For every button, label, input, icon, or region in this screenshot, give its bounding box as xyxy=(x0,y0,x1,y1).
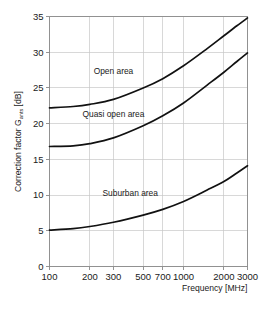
x-tick-label: 1000 xyxy=(173,271,194,282)
y-tick-label: 10 xyxy=(33,189,44,200)
curve-annotation-open-area: Open area xyxy=(94,66,134,76)
x-tick-label: 700 xyxy=(155,271,171,282)
y-tick-label: 20 xyxy=(33,118,44,129)
x-tick-label: 500 xyxy=(135,271,151,282)
data-curve-suburban-area xyxy=(50,166,248,230)
y-tick-label: 35 xyxy=(33,11,44,22)
x-tick-label: 300 xyxy=(106,271,122,282)
y-axis-title-subscript: ants xyxy=(18,109,24,120)
curve-annotation-quasi-open-area: Quasi open area xyxy=(82,109,144,119)
curve-annotation-suburban-area: Suburban area xyxy=(102,188,158,198)
correction-factor-chart: 0510152025303510020030050070010002000300… xyxy=(0,0,274,310)
x-tick-label: 3000 xyxy=(237,271,258,282)
y-tick-label: 30 xyxy=(33,47,44,58)
y-tick-label: 15 xyxy=(33,154,44,165)
y-tick-label: 25 xyxy=(33,82,44,93)
data-curve-open-area xyxy=(50,18,248,108)
x-axis-title: Frequency [MHz] xyxy=(182,283,247,293)
y-axis-title-unit: [dB] xyxy=(13,91,23,109)
chart-canvas: 0510152025303510020030050070010002000300… xyxy=(0,0,274,310)
y-axis-title: Correction factor Gants [dB] xyxy=(13,91,24,192)
data-curve-quasi-open-area xyxy=(50,53,248,147)
y-axis-title-main: Correction factor G xyxy=(13,119,23,192)
y-tick-label: 5 xyxy=(38,225,43,236)
x-tick-label: 2000 xyxy=(213,271,234,282)
x-tick-label: 200 xyxy=(82,271,98,282)
y-axis-title-text: Correction factor Gants [dB] xyxy=(13,91,24,192)
x-tick-label: 100 xyxy=(42,271,58,282)
